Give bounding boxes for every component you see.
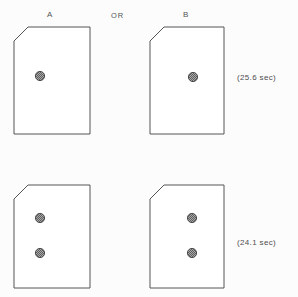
dot-center (188, 72, 197, 81)
dot-center (35, 71, 44, 80)
card-outline (150, 185, 224, 288)
label-option-a: A (47, 10, 53, 19)
card-row1-b (150, 27, 224, 134)
card-row1-a (14, 27, 90, 134)
card-outline (150, 27, 224, 134)
label-time-row-1: (25.6 sec) (237, 73, 276, 82)
card-row2-right (150, 185, 224, 288)
label-option-b: B (183, 10, 189, 19)
card-outline (14, 27, 90, 134)
diagram-canvas: A OR B (25.6 sec) (24.1 sec) (0, 0, 298, 297)
shapes-svg (0, 0, 298, 297)
label-time-row-2: (24.1 sec) (237, 238, 276, 247)
dot-upper (187, 213, 196, 222)
dot-upper (35, 213, 44, 222)
label-conjunction-or: OR (111, 11, 124, 20)
dot-lower (35, 248, 44, 257)
card-row2-left (14, 185, 90, 288)
card-outline (14, 185, 90, 288)
dot-lower (187, 248, 196, 257)
